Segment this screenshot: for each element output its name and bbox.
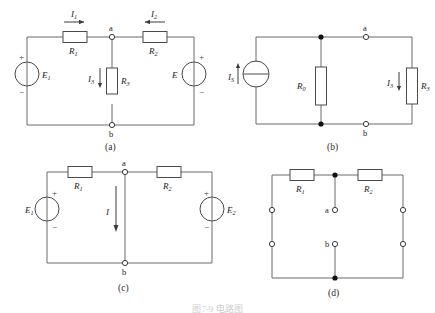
node-a-terminal — [109, 34, 114, 39]
source-E1-c — [35, 197, 59, 221]
source-E — [182, 62, 206, 86]
resistor-R0 — [316, 67, 327, 105]
node-b-terminal — [109, 122, 114, 127]
node-b-label-c: b — [122, 267, 126, 277]
source-E1-c-plus: + — [52, 188, 57, 198]
node-a-terminal-d — [332, 207, 337, 212]
node-a-label-b: a — [363, 23, 367, 33]
figure-caption: 图7-9 电路图 — [0, 304, 435, 313]
resistor-R2 — [143, 32, 167, 43]
panel-a-caption: (a) — [105, 142, 116, 153]
resistor-R1-c — [68, 167, 92, 178]
node-b-terminal-d — [332, 241, 337, 246]
source-E-minus: − — [199, 87, 204, 97]
source-E1-plus: + — [19, 52, 24, 62]
junction-bottom — [318, 121, 323, 126]
panel-d-caption: (d) — [328, 288, 339, 299]
node-a-terminal-c — [122, 169, 127, 174]
junction-top-d — [332, 172, 337, 177]
node-a-label-d: a — [325, 205, 329, 215]
terminal-left-lower — [269, 241, 274, 246]
panel-c-caption: (c) — [118, 283, 129, 294]
source-E2-c-minus: − — [204, 222, 209, 232]
figure-background — [0, 0, 435, 313]
panel-b-caption: (b) — [327, 142, 338, 153]
resistor-R3 — [107, 68, 118, 94]
source-E-label: E — [171, 70, 178, 80]
circuit-figure: R1 R2 R3 I1 I2 I3 — [0, 0, 435, 313]
source-E1-minus: − — [19, 87, 24, 97]
node-b-terminal-b — [363, 121, 368, 126]
node-a-terminal-b — [363, 34, 368, 39]
resistor-R2-c — [157, 167, 181, 178]
resistor-R1 — [63, 32, 87, 43]
source-E1 — [15, 62, 39, 86]
resistor-R2-d — [358, 170, 382, 181]
source-E1-c-minus: − — [52, 222, 57, 232]
terminal-right-upper — [400, 207, 405, 212]
node-b-label-d: b — [325, 239, 329, 249]
terminal-right-lower — [400, 241, 405, 246]
source-E2-c-plus: + — [204, 188, 209, 198]
node-a-label: a — [109, 23, 113, 33]
junction-bottom-d — [332, 275, 337, 280]
junction-top — [318, 34, 323, 39]
terminal-left-upper — [269, 207, 274, 212]
resistor-R3-b — [407, 68, 418, 104]
node-b-terminal-c — [122, 260, 127, 265]
resistor-R1-d — [290, 170, 314, 181]
node-b-label: b — [109, 129, 113, 139]
node-b-label-b: b — [363, 128, 367, 138]
source-IS — [243, 61, 269, 87]
node-a-label-c: a — [122, 158, 126, 168]
source-E-plus: + — [199, 52, 204, 62]
source-E2-c — [200, 197, 224, 221]
